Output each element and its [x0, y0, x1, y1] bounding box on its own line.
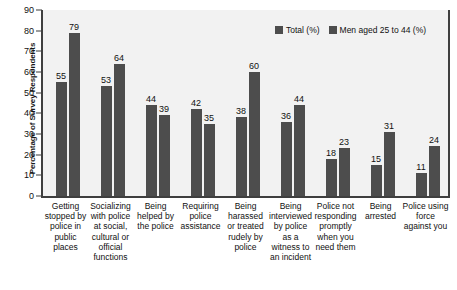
y-tick-label-20: 20	[24, 150, 34, 160]
bar-group: 1823	[326, 10, 350, 196]
x-axis-label-line: stopped by	[45, 211, 87, 221]
bar: 18	[326, 159, 337, 196]
plot-area: 557953644439423538603644182315311124	[41, 10, 450, 198]
bar: 35	[204, 124, 215, 196]
bar-group: 1531	[371, 10, 395, 196]
bar-value-label: 31	[384, 121, 394, 131]
bar: 44	[294, 105, 305, 196]
x-axis-label-line: against you	[404, 221, 447, 231]
x-axis-label-line: need them	[315, 242, 355, 252]
x-axis-label: Requiringpoliceassistance	[176, 201, 225, 232]
bar-value-label: 36	[281, 111, 291, 121]
y-tick-label-10: 10	[24, 170, 34, 180]
bar-value-label: 23	[339, 137, 349, 147]
x-axis-label-line: force	[416, 211, 435, 221]
bar: 64	[114, 64, 125, 196]
bar-value-label: 24	[429, 135, 439, 145]
legend-label: Men aged 25 to 44 (%)	[340, 25, 426, 35]
bar-value-label: 53	[101, 75, 111, 85]
x-axis-label-line: promptly	[319, 221, 352, 231]
x-axis-label-line: official	[99, 242, 123, 252]
bar-value-label: 18	[326, 148, 336, 158]
bar-group: 1124	[416, 10, 440, 196]
y-tick-label-40: 40	[24, 108, 34, 118]
bar: 60	[249, 72, 260, 196]
x-axis-label-line: Socializing	[90, 201, 131, 211]
x-axis-label-line: cultural or	[92, 232, 129, 242]
bar: 55	[56, 82, 67, 196]
bar-group: 5579	[56, 10, 80, 196]
x-axis-label-line: Getting	[52, 201, 79, 211]
x-axis-label: Gettingstopped bypolice inpublicplaces	[41, 201, 90, 252]
y-tick-label-70: 70	[24, 46, 34, 56]
bar: 23	[339, 148, 350, 196]
bar: 79	[69, 33, 80, 196]
x-axis-label-line: harassed	[228, 211, 263, 221]
y-tick-label-80: 80	[24, 26, 34, 36]
bar-value-label: 15	[371, 154, 381, 164]
bars-layer: 557953644439423538603644182315311124	[43, 10, 448, 196]
x-axis-label-line: police	[189, 211, 211, 221]
bar-value-label: 35	[204, 113, 214, 123]
bar: 38	[236, 117, 247, 196]
x-axis-label-line: Being	[280, 201, 302, 211]
x-axis-label-line: police	[234, 242, 256, 252]
bar-group: 4235	[191, 10, 215, 196]
bar-value-label: 55	[56, 71, 66, 81]
bar: 39	[159, 115, 170, 196]
x-axis-label-line: public	[54, 232, 76, 242]
x-axis-label-line: Requiring	[182, 201, 218, 211]
x-axis-label-line: functions	[93, 252, 127, 262]
bar: 31	[384, 132, 395, 196]
y-tick-label-50: 50	[24, 88, 34, 98]
legend-item[interactable]: Men aged 25 to 44 (%)	[329, 25, 426, 35]
legend-swatch-icon	[275, 26, 283, 34]
y-tick-label-90: 90	[24, 5, 34, 15]
x-axis-label-line: places	[53, 242, 78, 252]
x-axis-label: Beingharassedor treatedrudely bypolice	[221, 201, 270, 252]
bar: 15	[371, 165, 382, 196]
bar-value-label: 38	[236, 106, 246, 116]
x-axis-label-line: interviewed	[269, 211, 312, 221]
y-tick-label-60: 60	[24, 67, 34, 77]
x-axis-label-line: Being	[370, 201, 392, 211]
x-axis-label: Beinginterviewedby policeas awitness toa…	[266, 201, 315, 262]
x-axis-label: Beinghelped bythe police	[131, 201, 180, 232]
x-axis-label-line: rudely by	[228, 232, 263, 242]
x-axis-label-line: Police using	[403, 201, 449, 211]
y-tick-label-0: 0	[29, 191, 34, 201]
x-axis-label-line: arrested	[365, 211, 396, 221]
x-axis-label-line: responding	[314, 211, 356, 221]
y-tick-label-30: 30	[24, 129, 34, 139]
bar: 44	[146, 105, 157, 196]
bar-value-label: 60	[249, 61, 259, 71]
x-axis-label-line: at social,	[94, 221, 128, 231]
x-axis-label-line: when you	[317, 232, 353, 242]
x-axis-label: Beingarrested	[356, 201, 405, 221]
bar-value-label: 44	[146, 94, 156, 104]
bar-value-label: 42	[191, 98, 201, 108]
x-axis-label-line: the police	[137, 221, 173, 231]
x-axis-label: Socializingwith policeat social,cultural…	[86, 201, 135, 262]
x-axis-label-line: police in	[50, 221, 81, 231]
x-axis-label-line: Police not	[317, 201, 354, 211]
x-axis-label-line: as a	[282, 232, 298, 242]
bar-value-label: 64	[114, 53, 124, 63]
legend-label: Total (%)	[286, 25, 320, 35]
x-axis-label-line: witness to	[272, 242, 310, 252]
x-axis-label-line: assistance	[180, 221, 220, 231]
bar-value-label: 11	[416, 162, 425, 172]
y-axis: 0102030405060708090	[0, 0, 42, 290]
bar-value-label: 39	[159, 104, 169, 114]
x-axis-label-line: an incident	[270, 252, 311, 262]
bar: 42	[191, 109, 202, 196]
x-axis-labels: Gettingstopped bypolice inpublicplacesSo…	[41, 201, 450, 289]
bar: 36	[281, 122, 292, 196]
legend-item[interactable]: Total (%)	[275, 25, 320, 35]
x-axis-label-line: with police	[91, 211, 131, 221]
x-axis-label-line: Being	[145, 201, 167, 211]
bar: 11	[416, 173, 427, 196]
x-axis-label-line: helped by	[137, 211, 174, 221]
x-axis-label-line: by police	[274, 221, 308, 231]
bar-value-label: 44	[294, 94, 304, 104]
